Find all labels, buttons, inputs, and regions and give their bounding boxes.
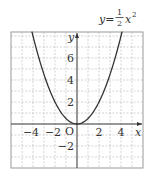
x-axis-label: x [135,126,142,139]
y-tick-label: 2 [67,96,74,109]
equation-lhs: y= [98,13,114,26]
parabola-plot: −4−224642−2 y x O y= 1 2 x 2 [0,0,154,178]
y-tick-label: 6 [67,52,74,65]
equation-numerator: 1 [117,8,122,17]
axes [11,33,142,168]
y-tick-label: 4 [67,74,74,87]
equation-variable: x [125,13,132,26]
x-tick-label: 4 [118,126,125,139]
equation-denominator: 2 [117,19,122,28]
y-axis-label: y [67,31,75,44]
x-tick-label: −2 [45,126,61,139]
y-tick-label: −2 [58,140,74,153]
equation-exponent: 2 [132,11,136,19]
equation-label: y= 1 2 x 2 [98,8,136,28]
x-tick-label: 2 [96,126,103,139]
x-tick-label: −4 [23,126,39,139]
origin-label: O [65,125,74,138]
y-axis-arrow-icon [75,33,79,38]
